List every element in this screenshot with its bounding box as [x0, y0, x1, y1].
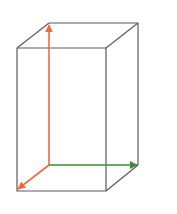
- box-axes-diagram: [0, 0, 177, 214]
- front-face-edge: [17, 48, 106, 191]
- top-left-depth-edge: [17, 23, 49, 48]
- axes: [18, 25, 137, 189]
- top-right-depth-edge: [106, 23, 138, 48]
- depth-axis-arrow-icon: [18, 165, 49, 189]
- bottom-right-depth-edge: [106, 165, 138, 191]
